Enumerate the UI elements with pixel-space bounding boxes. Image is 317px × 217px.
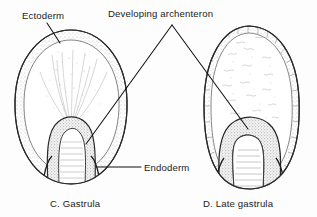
gastrulation-diagram: Ectoderm Developing archenteron Endoderm… bbox=[0, 0, 317, 217]
caption-gastrula: C. Gastrula bbox=[50, 198, 101, 209]
specimen-gastrula bbox=[15, 30, 127, 184]
label-endoderm: Endoderm bbox=[144, 162, 189, 173]
label-ectoderm: Ectoderm bbox=[22, 10, 64, 21]
label-developing-archenteron: Developing archenteron bbox=[108, 8, 213, 19]
caption-late-gastrula: D. Late gastrula bbox=[203, 198, 274, 209]
specimen-late-gastrula bbox=[204, 26, 299, 189]
gastrula-archenteron-lumen bbox=[59, 128, 86, 184]
figure-root: Ectoderm Developing archenteron Endoderm… bbox=[0, 0, 317, 217]
